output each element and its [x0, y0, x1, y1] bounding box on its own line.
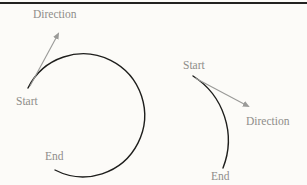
left-start-label: Start	[16, 96, 38, 108]
left-direction-label: Direction	[33, 9, 76, 21]
right-direction-label: Direction	[246, 116, 289, 128]
right-end-label: End	[211, 171, 230, 183]
right-arc-curve	[193, 76, 228, 168]
right-direction-arrow	[195, 78, 244, 104]
figure-canvas: Direction Start End Start Direction End	[0, 0, 307, 185]
left-end-label: End	[45, 151, 64, 163]
right-start-label: Start	[183, 60, 205, 72]
